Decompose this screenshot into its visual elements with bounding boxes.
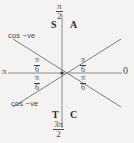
cast-quadrant-diagram: π 2 3π 2 π 0 S A T C π 6 π 6 π 6	[0, 0, 134, 143]
quadrant-letter-c: C	[70, 110, 77, 120]
angle-label-lower-left: π 6	[34, 74, 40, 92]
angle-label-lower-right-denominator: 6	[80, 83, 86, 92]
axis-label-3pi-over-2: 3π 2	[53, 120, 64, 140]
angle-label-lower-right-numerator: π	[80, 74, 86, 82]
axis-label-pi-left: π	[2, 67, 7, 76]
angle-label-upper-left-numerator: π	[34, 56, 40, 64]
diagram-lines	[0, 0, 134, 143]
angle-label-upper-left: π 6	[34, 56, 40, 74]
angle-label-lower-left-denominator: 6	[34, 83, 40, 92]
quadrant-letter-s: S	[51, 20, 57, 30]
angle-label-lower-right: π 6	[80, 74, 86, 92]
annotation-cos-negative-upper: cos −ve	[8, 32, 35, 40]
angle-label-upper-right: π 6	[80, 56, 86, 74]
axis-label-zero-right: 0	[123, 66, 128, 76]
quadrant-letter-a: A	[70, 20, 77, 30]
angle-label-lower-left-numerator: π	[34, 74, 40, 82]
axis-label-pi-over-2-numerator: π	[56, 2, 63, 11]
axis-label-3pi-over-2-numerator: 3π	[53, 120, 64, 129]
origin-point	[60, 71, 63, 74]
axis-label-3pi-over-2-denominator: 2	[53, 129, 64, 139]
annotation-cos-negative-lower: cos −ve	[11, 100, 38, 108]
quadrant-letter-t: T	[52, 110, 59, 120]
angle-label-upper-right-numerator: π	[80, 56, 86, 64]
